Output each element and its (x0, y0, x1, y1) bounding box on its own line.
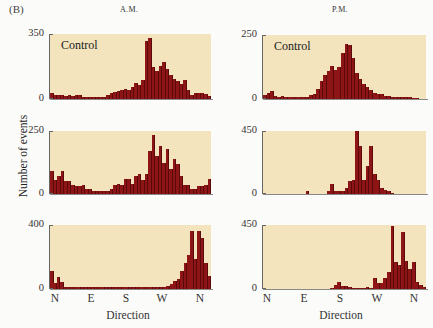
x-tick-label-s: S (119, 292, 133, 304)
x-tick-label-n: N (260, 292, 274, 304)
plot-pm_bottom (263, 225, 426, 289)
y-tick (262, 225, 266, 226)
x-tick-label-n: N (48, 292, 62, 304)
y-max-label: 250 (14, 124, 44, 135)
y-zero-label: 0 (227, 92, 257, 103)
y-max-label: 400 (14, 218, 44, 229)
y-axis-line (262, 131, 263, 194)
y-axis-line (262, 225, 263, 289)
x-tick-label-n: N (193, 292, 207, 304)
y-zero-label: 0 (14, 92, 44, 103)
y-tick (49, 225, 53, 226)
y-axis-line (49, 131, 50, 194)
y-max-label: 450 (227, 124, 257, 135)
x-axis-title: Direction (88, 309, 168, 321)
y-zero-label: 0 (227, 282, 257, 293)
x-axis-title: Direction (301, 309, 381, 321)
y-tick (49, 34, 53, 35)
plot-am_bottom (50, 225, 211, 289)
x-tick-label-w: W (155, 292, 169, 304)
y-axis-line (262, 35, 263, 99)
histogram-bar (208, 179, 212, 194)
x-axis-line (50, 99, 213, 100)
y-zero-label: 0 (14, 282, 44, 293)
y-max-label: 450 (227, 218, 257, 229)
y-zero-label: 0 (227, 187, 257, 198)
x-tick-label-n: N (407, 292, 421, 304)
panel-label: (B) (9, 3, 24, 15)
x-tick-label-e: E (84, 292, 98, 304)
column-title-pm: P.M. (332, 5, 348, 14)
y-tick (49, 131, 53, 132)
x-axis-line (50, 289, 213, 290)
x-axis-line (50, 194, 213, 195)
y-tick (262, 35, 266, 36)
column-title-am: A.M. (120, 5, 138, 14)
x-tick-label-w: W (370, 292, 384, 304)
x-axis-line (263, 99, 428, 100)
y-max-label: 250 (227, 28, 257, 39)
plot-pm_middle (263, 131, 426, 194)
y-axis-line (49, 34, 50, 99)
x-tick-label-s: S (333, 292, 347, 304)
y-axis-line (49, 225, 50, 289)
y-max-label: 350 (14, 27, 44, 38)
control-label: Control (274, 39, 311, 54)
x-axis-line (263, 194, 428, 195)
x-axis-line (263, 289, 428, 290)
control-label: Control (61, 38, 98, 53)
y-zero-label: 0 (14, 187, 44, 198)
x-tick-label-e: E (297, 292, 311, 304)
y-tick (262, 131, 266, 132)
histogram-bar (208, 276, 212, 289)
plot-am_middle (50, 131, 211, 194)
